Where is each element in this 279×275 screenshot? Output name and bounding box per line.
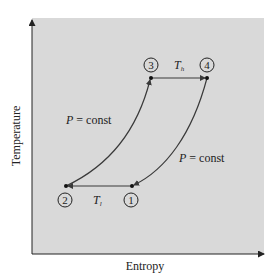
svg-text:2: 2 [62,194,68,206]
state-point-2 [64,184,68,188]
y-axis-label: Temperature [9,106,23,166]
ts-diagram: Entropy Temperature 2 1 3 4 Th Tl P = co… [0,0,279,275]
right-pressure-label: P = const [178,151,225,165]
state-point-3 [149,76,153,80]
svg-text:4: 4 [204,59,210,71]
plot-panel [32,18,264,254]
left-pressure-label: P = const [65,113,112,127]
svg-text:1: 1 [128,194,134,206]
svg-text:3: 3 [148,59,154,71]
x-axis-label: Entropy [126,259,165,273]
state-point-1 [130,184,134,188]
state-point-4 [205,76,209,80]
